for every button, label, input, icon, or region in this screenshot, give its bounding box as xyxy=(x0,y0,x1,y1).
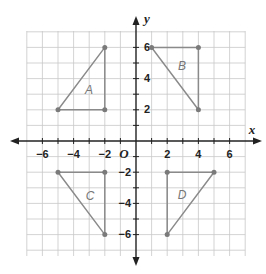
y-tick-label: −2 xyxy=(118,166,131,178)
y-tick-label: −6 xyxy=(118,228,131,240)
y-tick-label: −4 xyxy=(118,197,131,209)
y-axis-down-arrow-icon xyxy=(133,257,140,266)
x-axis-right-arrow-icon xyxy=(253,138,262,145)
y-axis-up-arrow-icon xyxy=(133,16,140,25)
x-axis-left-arrow-icon xyxy=(10,138,19,145)
x-tick-label: −6 xyxy=(36,148,49,160)
x-tick-label: −2 xyxy=(99,148,112,160)
origin-label: O xyxy=(119,146,129,161)
y-tick-label: 4 xyxy=(144,72,151,84)
triangle-b-label: B xyxy=(178,59,186,73)
x-tick-label: −4 xyxy=(67,148,80,160)
triangle-c-label: C xyxy=(86,189,95,203)
x-tick-label: 2 xyxy=(164,148,170,160)
x-tick-label: 4 xyxy=(195,148,202,160)
coordinate-plane: −6 −4 −2 2 4 6 6 4 2 −2 −4 −6 O x y A B … xyxy=(0,0,266,274)
triangle-d-label: D xyxy=(178,188,187,202)
y-tick-label: 2 xyxy=(144,103,150,115)
y-axis-label: y xyxy=(142,11,150,26)
triangle-a-label: A xyxy=(84,83,93,97)
x-tick-label: 6 xyxy=(227,148,233,160)
x-axis-label: x xyxy=(248,122,256,137)
